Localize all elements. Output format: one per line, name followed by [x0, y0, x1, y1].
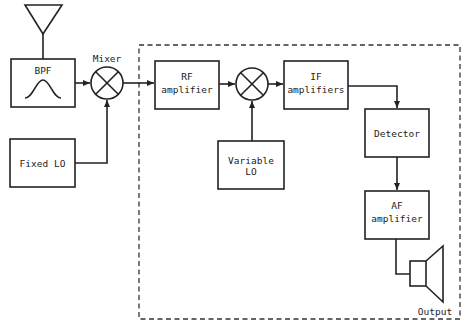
speaker-icon — [410, 246, 443, 302]
mixer-label: Mixer — [93, 53, 122, 64]
antenna-icon — [25, 5, 62, 59]
bpf-label: BPF — [34, 65, 51, 76]
af-amplifier-block: AF amplifier — [365, 191, 429, 239]
af-amp-label-2: amplifier — [371, 213, 423, 224]
mixer-2 — [236, 68, 268, 100]
fixed-lo-block: Fixed LO — [10, 139, 75, 187]
if-amp-label-2: amplifiers — [287, 84, 344, 95]
fixed-lo-to-mixer-arrow — [75, 100, 107, 163]
if-amplifiers-block: IF amplifiers — [284, 61, 348, 109]
af-amp-label-1: AF — [391, 200, 403, 211]
detector-label: Detector — [374, 128, 420, 139]
bpf-block: BPF — [11, 59, 75, 107]
mixer-1: Mixer — [91, 53, 123, 99]
output-label: Output — [418, 306, 452, 317]
rf-amp-label-1: RF — [181, 71, 193, 82]
if-to-detector-arrow — [348, 86, 397, 108]
detector-block: Detector — [365, 109, 429, 157]
if-amp-label-1: IF — [310, 71, 322, 82]
variable-lo-label-2: LO — [245, 166, 257, 177]
block-diagram: BPF Mixer Fixed LO RF amplifier Variable… — [0, 0, 470, 334]
af-to-speaker-line — [396, 239, 410, 274]
fixed-lo-label: Fixed LO — [20, 158, 66, 169]
rf-amplifier-block: RF amplifier — [155, 61, 219, 109]
rf-amp-label-2: amplifier — [161, 84, 213, 95]
variable-lo-label-1: Variable — [228, 155, 274, 166]
variable-lo-block: Variable LO — [218, 141, 284, 189]
